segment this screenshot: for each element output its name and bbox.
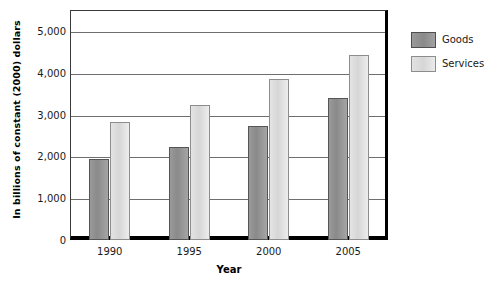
bar-services-2000 [269, 79, 289, 240]
y-axis-tick-labels: 01,0002,0003,0004,0005,000 [0, 0, 66, 284]
bar-services-2005 [349, 55, 369, 240]
legend-item-goods: Goods [411, 31, 488, 48]
x-tick-label: 2000 [239, 246, 299, 257]
bar-chart: In billions of constant (2000) dollars 0… [0, 0, 488, 284]
legend-swatch-goods-icon [411, 32, 436, 48]
bars-layer [70, 10, 388, 240]
y-tick-label: 5,000 [4, 25, 66, 36]
legend: GoodsServices [411, 31, 488, 79]
bar-services-1995 [190, 105, 210, 240]
legend-swatch-services-icon [411, 56, 436, 72]
x-axis-title: Year [70, 264, 388, 275]
bar-services-1990 [110, 122, 130, 240]
bar-goods-2000 [248, 126, 268, 240]
y-tick-label: 3,000 [4, 109, 66, 120]
bar-goods-1995 [169, 147, 189, 240]
legend-label: Services [442, 58, 484, 69]
x-axis-tick-labels: 1990199520002005 [70, 246, 388, 262]
y-tick-label: 2,000 [4, 151, 66, 162]
bar-goods-1990 [89, 159, 109, 240]
bar-goods-2005 [328, 98, 348, 240]
x-tick-label: 2005 [318, 246, 378, 257]
x-tick-label: 1995 [159, 246, 219, 257]
y-tick-label: 1,000 [4, 193, 66, 204]
x-tick-label: 1990 [80, 246, 140, 257]
y-tick-label: 4,000 [4, 67, 66, 78]
legend-item-services: Services [411, 55, 488, 72]
y-tick-label: 0 [4, 235, 66, 246]
legend-label: Goods [442, 34, 474, 45]
